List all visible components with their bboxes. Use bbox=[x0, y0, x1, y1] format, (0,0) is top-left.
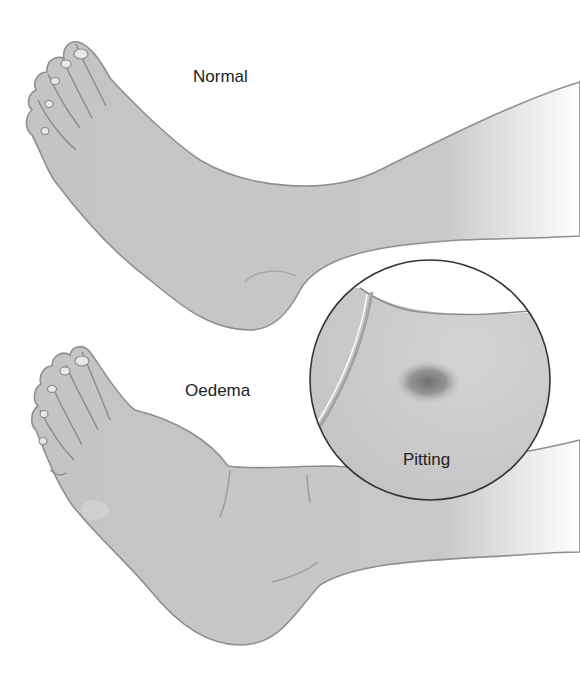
pitting-indentation bbox=[394, 360, 462, 404]
toenail bbox=[75, 356, 89, 366]
oedema-label: Oedema bbox=[185, 381, 250, 401]
toenail bbox=[41, 128, 49, 135]
toenail bbox=[60, 367, 70, 375]
oedema-illustration: Normal Oedema Pitting bbox=[0, 0, 580, 681]
toenail bbox=[39, 438, 47, 445]
pitting-label: Pitting bbox=[403, 450, 450, 470]
illustration-canvas bbox=[0, 0, 580, 681]
toenail bbox=[61, 60, 71, 68]
toenail bbox=[74, 49, 88, 59]
toenail bbox=[51, 78, 60, 85]
toenail bbox=[48, 386, 57, 393]
toenail bbox=[45, 101, 53, 108]
toenail bbox=[40, 411, 48, 418]
normal-label: Normal bbox=[193, 67, 248, 87]
